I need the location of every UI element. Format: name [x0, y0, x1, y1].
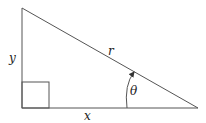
- hypotenuse: [22, 8, 198, 108]
- right-angle-marker: [22, 82, 49, 108]
- label-x: x: [84, 109, 91, 123]
- label-y: y: [8, 51, 16, 65]
- label-r: r: [108, 44, 115, 58]
- label-theta: θ: [130, 84, 138, 98]
- triangle-diagram: y x r θ: [0, 0, 206, 123]
